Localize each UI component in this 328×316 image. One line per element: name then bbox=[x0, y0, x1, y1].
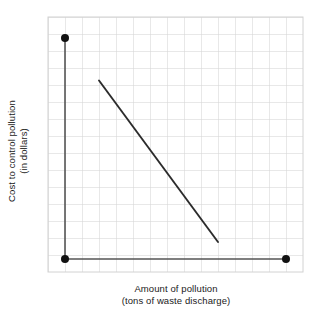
chart-plot-svg bbox=[0, 0, 328, 316]
y-axis-title-line2: (in dollars) bbox=[18, 71, 30, 231]
y-axis-title-line1: Cost to control pollution bbox=[6, 100, 17, 202]
marker-origin bbox=[61, 255, 69, 263]
chart-gridlines bbox=[48, 17, 303, 272]
marker-top-left bbox=[61, 34, 69, 42]
x-axis-title: Amount of pollution (tons of waste disch… bbox=[64, 283, 288, 307]
x-axis-title-line1: Amount of pollution bbox=[134, 283, 217, 294]
y-axis-title: Cost to control pollution (in dollars) bbox=[6, 71, 30, 231]
x-axis-title-line2: (tons of waste discharge) bbox=[64, 295, 288, 307]
marker-bottom-right bbox=[282, 255, 290, 263]
chart-figure: Cost to control pollution (in dollars) A… bbox=[0, 0, 328, 316]
